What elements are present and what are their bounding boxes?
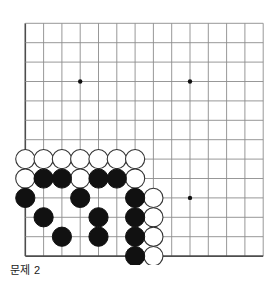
black-stone[interactable] [71, 188, 90, 207]
star-point [78, 79, 82, 83]
white-stone[interactable] [52, 150, 71, 169]
black-stone[interactable] [126, 227, 145, 246]
black-stone[interactable] [89, 227, 108, 246]
black-stone[interactable] [89, 208, 108, 227]
figure-page: 문제 2 [0, 0, 278, 287]
black-stone[interactable] [34, 169, 53, 188]
white-stone[interactable] [71, 150, 90, 169]
white-stone[interactable] [16, 150, 35, 169]
black-stone[interactable] [107, 169, 126, 188]
white-stone[interactable] [71, 169, 90, 188]
black-stone[interactable] [126, 188, 145, 207]
black-stone[interactable] [126, 208, 145, 227]
white-stone[interactable] [126, 150, 145, 169]
white-stone[interactable] [107, 150, 126, 169]
white-stone[interactable] [144, 227, 163, 246]
star-point [188, 196, 192, 200]
white-stone[interactable] [16, 169, 35, 188]
white-stone[interactable] [144, 188, 163, 207]
white-stone[interactable] [34, 150, 53, 169]
figure-caption: 문제 2 [10, 263, 260, 277]
white-stone[interactable] [144, 208, 163, 227]
black-stone[interactable] [16, 188, 35, 207]
white-stone[interactable] [89, 150, 108, 169]
black-stone[interactable] [52, 169, 71, 188]
star-point [188, 79, 192, 83]
black-stone[interactable] [34, 208, 53, 227]
black-stone[interactable] [52, 227, 71, 246]
go-board[interactable] [0, 0, 278, 265]
white-stone[interactable] [126, 169, 145, 188]
go-board-canvas[interactable] [0, 0, 278, 265]
black-stone[interactable] [89, 169, 108, 188]
